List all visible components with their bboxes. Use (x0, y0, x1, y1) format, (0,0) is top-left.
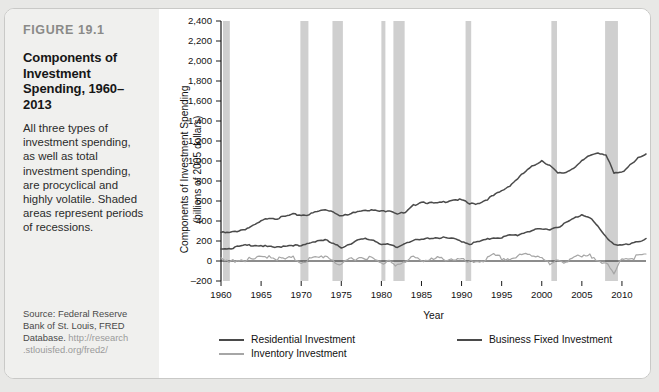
x-axis-ticks-group: 1960196519701975198019851990199520002005… (210, 281, 632, 300)
x-tick-label-1990: 1990 (451, 289, 472, 300)
y-tick-label-1800: 1,800 (188, 75, 212, 86)
legend-row-2: Inventory Investment (219, 348, 649, 359)
x-tick-label-1965: 1965 (250, 289, 271, 300)
recession-band-5 (393, 21, 404, 281)
data-series-group (221, 153, 646, 274)
legend-swatch-residential-icon (219, 339, 244, 341)
legend-item-inventory-investment[interactable]: Inventory Investment (219, 348, 457, 359)
source-note: Source: Federal Reserve Bank of St. Loui… (23, 308, 147, 356)
y-tick-label-2200: 2,200 (188, 35, 212, 46)
figure-caption-column: FIGURE 19.1 Components of Investment Spe… (5, 9, 159, 378)
y-tick-label-0: 0 (207, 255, 212, 266)
y-tick-label-200: 200 (196, 235, 212, 246)
chart-legend: Residential Investment Business Fixed In… (219, 334, 649, 362)
legend-label-residential: Residential Investment (251, 334, 355, 345)
x-tick-label-1980: 1980 (371, 289, 392, 300)
y-axis-ticks-group: –20002004006008001,0001,2001,4001,6001,8… (188, 15, 221, 286)
recession-band-4 (381, 21, 385, 281)
recession-bands-group (223, 21, 618, 281)
x-tick-label-1995: 1995 (491, 289, 512, 300)
y-tick-label-800: 800 (196, 175, 212, 186)
recession-band-3 (332, 21, 342, 281)
legend-item-business-fixed-investment[interactable]: Business Fixed Investment (457, 334, 612, 345)
recession-band-6 (466, 21, 472, 281)
y-tick-label-1200: 1,200 (188, 135, 212, 146)
source-line-3: Database. (23, 332, 68, 343)
y-tick-label-600: 600 (196, 195, 212, 206)
y-tick-label-400: 400 (196, 215, 212, 226)
y-tick-label-1000: 1,000 (188, 155, 212, 166)
x-tick-label-1985: 1985 (411, 289, 432, 300)
recession-band-1 (223, 21, 230, 281)
figure-number: FIGURE 19.1 (23, 23, 145, 37)
y-tick-label-2400: 2,400 (188, 15, 212, 26)
source-url-part-2: .stlouisfed.org/fred2/ (23, 344, 108, 355)
x-tick-label-2005: 2005 (571, 289, 592, 300)
legend-row-1: Residential Investment Business Fixed In… (219, 334, 649, 345)
line-chart-svg: –20002004006008001,0001,2001,4001,6001,8… (159, 9, 651, 329)
axis-lines-group (221, 21, 646, 281)
source-line-2: Bank of St. Louis, FRED (23, 320, 125, 331)
x-tick-label-1970: 1970 (291, 289, 312, 300)
x-tick-label-1975: 1975 (331, 289, 352, 300)
legend-label-business-fixed: Business Fixed Investment (489, 334, 612, 345)
y-tick-label-1600: 1,600 (188, 95, 212, 106)
y-tick-label-2000: 2,000 (188, 55, 212, 66)
chart-panel: Components of Investment Spending (billi… (159, 9, 650, 378)
x-tick-label-2010: 2010 (611, 289, 632, 300)
y-tick-label--200: –200 (191, 275, 212, 286)
recession-band-7 (551, 21, 557, 281)
series-line-inventory-investment (221, 253, 646, 274)
source-line-1: Source: Federal Reserve (23, 308, 127, 319)
series-line-residential-investment (221, 215, 646, 249)
x-tick-label-2000: 2000 (531, 289, 552, 300)
figure-card: FIGURE 19.1 Components of Investment Spe… (4, 8, 651, 379)
series-line-business-fixed-investment (221, 153, 646, 233)
legend-item-residential-investment[interactable]: Residential Investment (219, 334, 457, 345)
figure-title: Components of Investment Spending, 1960–… (23, 50, 145, 112)
y-tick-label-1400: 1,400 (188, 115, 212, 126)
legend-label-inventory: Inventory Investment (251, 348, 347, 359)
legend-swatch-inventory-icon (219, 353, 244, 355)
figure-description: All three types of investment spending, … (23, 121, 145, 235)
recession-band-2 (300, 21, 308, 281)
x-axis-title: Year (423, 310, 444, 321)
x-tick-label-1960: 1960 (210, 289, 231, 300)
legend-swatch-business-fixed-icon (457, 339, 482, 341)
source-url-part-1: http://research (68, 332, 128, 343)
